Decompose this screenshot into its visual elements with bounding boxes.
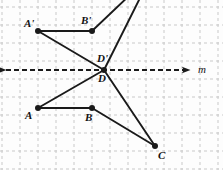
point-label-B: B [85, 112, 92, 123]
vertex-dot-A-prime [35, 28, 41, 34]
geometry-figure-canvas: A'B'D'DABCm [0, 0, 223, 170]
vertex-dot-B-prime [89, 28, 95, 34]
point-label-B-prime: B' [81, 15, 91, 26]
vertex-dot-A [35, 105, 41, 111]
point-label-D: D [98, 73, 106, 84]
point-label-C: C [158, 150, 165, 161]
point-label-D-prime: D' [97, 53, 108, 64]
point-label-A: A [25, 110, 32, 121]
mirror-line-label: m [198, 64, 206, 75]
point-label-A-prime: A' [24, 18, 34, 29]
